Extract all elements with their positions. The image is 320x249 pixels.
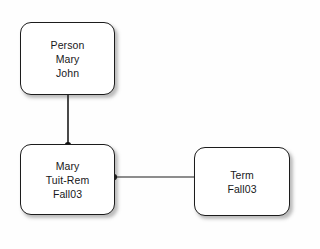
enrollment-node-line-3: Fall03 [53,187,82,201]
person-node-line-2: Mary [56,52,80,66]
term-node[interactable]: Term Fall03 [194,147,290,216]
person-node-line-3: John [56,66,79,80]
person-node-line-1: Person [51,38,85,52]
enrollment-node-line-2: Tuit-Rem [46,173,90,187]
enrollment-node[interactable]: Mary Tuit-Rem Fall03 [20,144,115,215]
person-node[interactable]: Person Mary John [20,22,115,95]
term-node-line-2: Fall03 [227,182,256,196]
diagram-canvas: Person Mary John Mary Tuit-Rem Fall03 Te… [0,0,320,249]
term-node-line-1: Term [230,168,254,182]
enrollment-node-line-1: Mary [56,159,80,173]
